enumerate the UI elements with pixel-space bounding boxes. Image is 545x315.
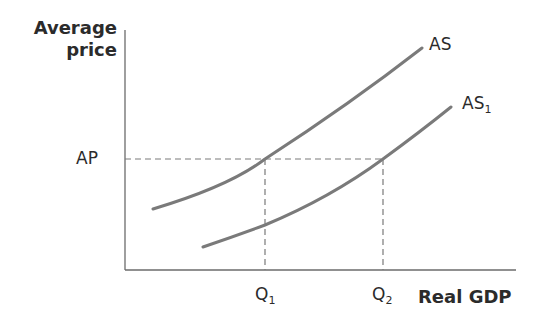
q1-label: Q1 (255, 284, 275, 307)
y-axis-label: Average price (34, 17, 117, 61)
as1-curve (203, 107, 451, 247)
as1-label-main: AS (462, 93, 484, 113)
as-curve (153, 48, 422, 209)
as1-label-subscript: 1 (484, 103, 491, 116)
q2-label-main: Q (372, 284, 385, 304)
y-axis-label-line1: Average (34, 17, 117, 39)
as1-label: AS1 (462, 93, 491, 116)
q2-label: Q2 (372, 284, 392, 307)
q1-label-main: Q (255, 284, 268, 304)
y-axis-label-line2: price (34, 39, 117, 61)
ap-label: AP (76, 148, 98, 168)
as-label: AS (429, 34, 451, 54)
q2-label-subscript: 2 (385, 294, 392, 307)
x-axis-label: Real GDP (418, 286, 512, 307)
q1-label-subscript: 1 (268, 294, 275, 307)
